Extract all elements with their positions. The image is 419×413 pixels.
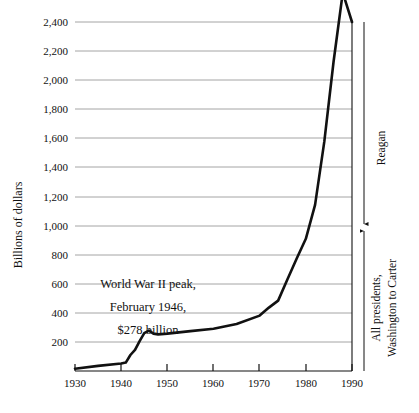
y-tick-200: 200 (52, 336, 69, 348)
x-tick-label-1960: 1960 (202, 377, 225, 389)
wwii-note-line-1: World War II peak, (100, 277, 196, 291)
all-presidents-label-line-1: All presidents, (370, 274, 383, 341)
wwii-note-line-3: $278 billion (118, 323, 180, 337)
y-tick-1400: 1,400 (43, 161, 68, 173)
wwii-peak-annotation: World War II peak, February 1946, $278 b… (100, 277, 196, 337)
x-tick-label-1950: 1950 (156, 377, 179, 389)
all-presidents-bracket: All presidents, Washington to Carter (364, 231, 399, 371)
x-tick-label-1940: 1940 (110, 377, 133, 389)
y-tick-1600: 1,600 (43, 132, 68, 144)
reagan-bracket-label: Reagan (375, 131, 388, 166)
x-tick-label-1990: 1990 (341, 377, 364, 389)
y-axis-title: Billions of dollars (11, 181, 25, 268)
all-presidents-label-line-2: Washington to Carter (386, 259, 399, 357)
x-axis-tick-labels: 1930 1940 1950 1960 1970 1980 1990 (64, 377, 364, 389)
y-axis-tick-labels: 2,400 2,200 2,000 1,800 1,600 1,400 1,20… (43, 16, 68, 348)
y-tick-1800: 1,800 (43, 103, 68, 115)
chart-canvas: 2,400 2,200 2,000 1,800 1,600 1,400 1,20… (0, 0, 419, 413)
y-tick-2400: 2,400 (43, 16, 68, 28)
x-tick-label-1930: 1930 (64, 377, 87, 389)
y-tick-2000: 2,000 (43, 74, 68, 86)
x-tick-label-1980: 1980 (295, 377, 318, 389)
federal-debt-chart: 2,400 2,200 2,000 1,800 1,600 1,400 1,20… (0, 0, 419, 413)
y-tick-1200: 1,200 (43, 191, 68, 203)
reagan-bracket: Reagan (364, 22, 388, 224)
gridlines (75, 22, 352, 342)
y-tick-600: 600 (52, 278, 69, 290)
y-tick-400: 400 (52, 307, 69, 319)
wwii-note-line-2: February 1946, (110, 300, 186, 314)
y-tick-2200: 2,200 (43, 45, 68, 57)
x-tick-label-1970: 1970 (248, 377, 271, 389)
y-tick-800: 800 (52, 249, 69, 261)
y-tick-1000: 1,000 (43, 220, 68, 232)
